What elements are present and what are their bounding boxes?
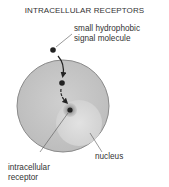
bound-molecule xyxy=(67,107,72,112)
signal-molecule-outside xyxy=(50,47,56,53)
receptor-label-line2: receptor xyxy=(8,173,38,183)
signal-molecule-cytoplasm xyxy=(59,80,65,86)
molecule-leader-line xyxy=(56,34,72,47)
molecule-label-line1: small hydrophobic xyxy=(74,24,140,34)
receptor-label-line1: intracellular xyxy=(8,163,50,173)
nucleus-label: nucleus xyxy=(95,152,123,162)
nucleus xyxy=(56,100,102,146)
molecule-label-line2: signal molecule xyxy=(74,34,130,44)
